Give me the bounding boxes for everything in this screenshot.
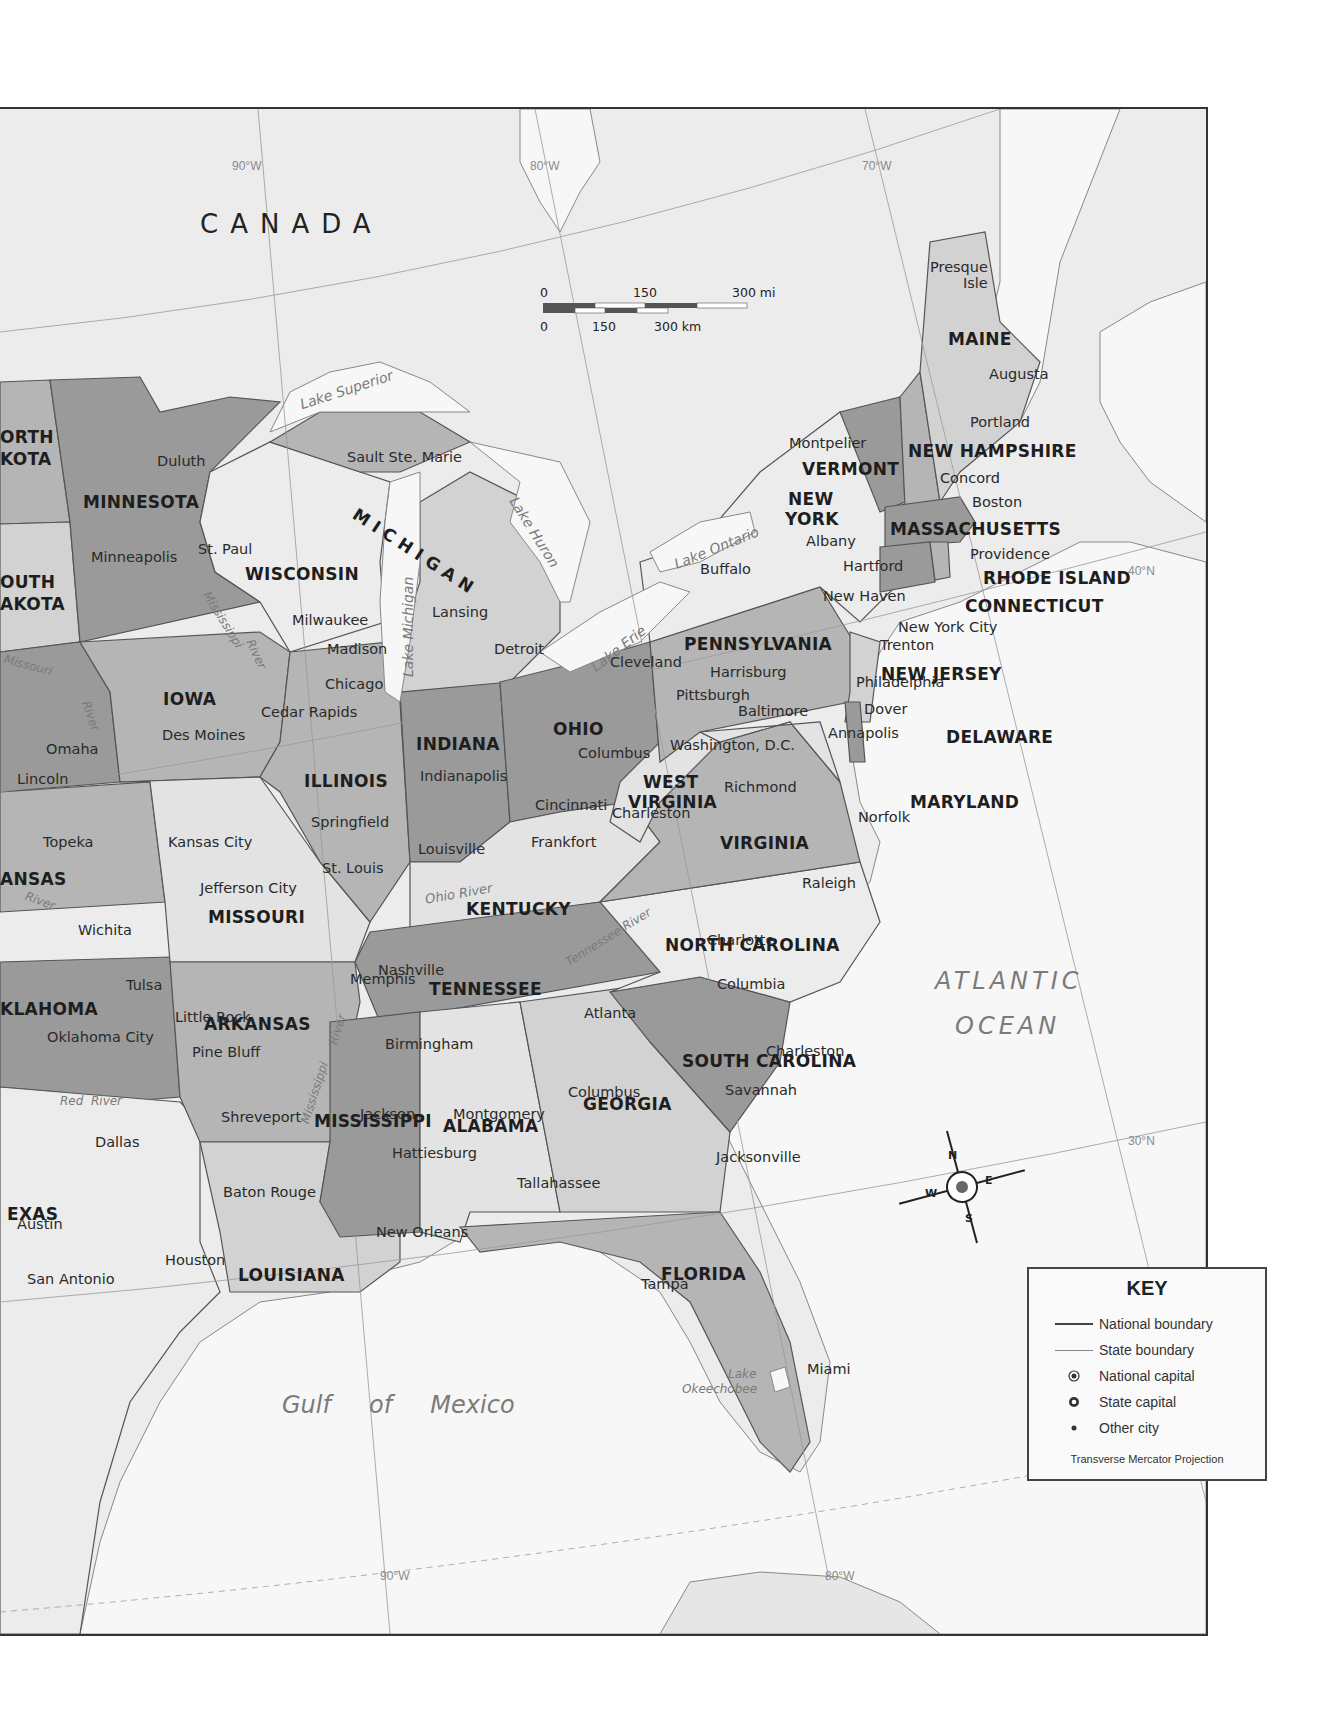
city-augusta: Augusta (989, 366, 1049, 382)
city-new-orleans: New Orleans (376, 1224, 468, 1240)
scale-mi-300: 300 mi (732, 285, 775, 300)
gulf-label: Gulf of Mexico (282, 1391, 515, 1419)
key-label: State capital (1099, 1394, 1176, 1410)
city-montgomery: Montgomery (453, 1106, 545, 1122)
city-cincinnati: Cincinnati (535, 797, 607, 813)
city-raleigh: Raleigh (802, 875, 856, 891)
city-wichita: Wichita (78, 922, 132, 938)
city-madison: Madison (327, 641, 387, 657)
state-label-ohio: OHIO (553, 719, 604, 739)
city-buffalo: Buffalo (700, 561, 751, 577)
state-label-south-dakota-2: AKOTA (0, 594, 65, 614)
scale-mi-0: 0 (540, 285, 548, 300)
key-label: National capital (1099, 1368, 1195, 1384)
city-albany: Albany (806, 533, 856, 549)
city-topeka: Topeka (43, 834, 93, 850)
national-boundary-line-icon (1049, 1323, 1099, 1325)
state-label-delaware: DELAWARE (946, 727, 1053, 747)
compass-w: W (925, 1187, 937, 1200)
city-norfolk: Norfolk (858, 809, 910, 825)
city-houston: Houston (165, 1252, 225, 1268)
city-st-paul: St. Paul (198, 541, 252, 557)
city-new-york-city: New York City (898, 619, 997, 635)
city-tallahassee: Tallahassee (517, 1175, 600, 1191)
state-label-tennessee: TENNESSEE (429, 979, 542, 999)
city-dot-icon (1049, 1424, 1099, 1432)
ocean-label-atlantic-1: ATLANTIC (935, 967, 1083, 995)
water-label-lake-okeechobee-2: Okeechobee (682, 1382, 757, 1396)
city-charlotte: Charlotte (707, 932, 774, 948)
city-chicago: Chicago (325, 676, 383, 692)
city-cedar-rapids: Cedar Rapids (261, 704, 357, 720)
city-columbia: Columbia (717, 976, 785, 992)
city-savannah: Savannah (725, 1082, 797, 1098)
grid-label-70w-top: 70°W (862, 159, 891, 173)
city-charleston-sc: Charleston (766, 1043, 844, 1059)
key-title: KEY (1029, 1277, 1265, 1300)
city-portland: Portland (970, 414, 1030, 430)
city-philadelphia: Philadelphia (856, 674, 944, 690)
city-charleston-wv: Charleston (612, 805, 690, 821)
water-label-lake-okeechobee-1: Lake (728, 1367, 756, 1381)
city-st-louis: St. Louis (322, 860, 384, 876)
city-tampa: Tampa (641, 1276, 689, 1292)
city-kansas-city: Kansas City (168, 834, 252, 850)
city-little-rock: Little Rock (175, 1009, 251, 1025)
grid-label-90w-top: 90°W (232, 159, 261, 173)
state-label-new-york-2: YORK (785, 509, 839, 529)
city-presque-isle-1: Presque (930, 259, 988, 275)
state-label-north-dakota-1: ORTH (0, 427, 54, 447)
map-key: KEY National boundary State boundary Nat… (1027, 1267, 1267, 1481)
grid-label-80w-top: 80°W (530, 159, 559, 173)
city-oklahoma-city: Oklahoma City (47, 1029, 154, 1045)
grid-label-30n: 30°N (1128, 1134, 1155, 1148)
city-baton-rouge: Baton Rouge (223, 1184, 316, 1200)
city-atlanta: Atlanta (584, 1005, 636, 1021)
compass-e: E (985, 1174, 993, 1187)
city-columbus-ga: Columbus (568, 1084, 640, 1100)
key-row-other-city: Other city (1049, 1417, 1159, 1439)
city-des-moines: Des Moines (162, 727, 245, 743)
state-label-kansas: ANSAS (0, 869, 67, 889)
water-label-red-river: Red River (60, 1094, 122, 1108)
city-frankfort: Frankfort (531, 834, 596, 850)
state-capital-icon (1049, 1396, 1099, 1408)
city-dover: Dover (864, 701, 908, 717)
city-nashville: Nashville (378, 962, 444, 978)
city-hartford: Hartford (843, 558, 903, 574)
city-harrisburg: Harrisburg (710, 664, 786, 680)
state-label-minnesota: MINNESOTA (83, 492, 199, 512)
grid-label-80w-bottom: 80°W (825, 1569, 854, 1583)
state-label-west-virginia-1: WEST (643, 772, 698, 792)
key-label: Other city (1099, 1420, 1159, 1436)
city-richmond: Richmond (724, 779, 797, 795)
state-label-new-york-1: NEW (788, 489, 834, 509)
map-canvas (0, 109, 1206, 1634)
scale-mi-150: 150 (633, 285, 657, 300)
state-label-connecticut: CONNECTICUT (965, 596, 1104, 616)
city-cleveland: Cleveland (610, 654, 682, 670)
city-baltimore: Baltimore (738, 703, 808, 719)
key-row-state-capital: State capital (1049, 1391, 1176, 1413)
scale-km-150: 150 (592, 319, 616, 334)
grid-label-40n: 40°N (1128, 564, 1155, 578)
country-label-canada: CANADA (200, 209, 383, 239)
city-sault-ste-marie: Sault Ste. Marie (347, 449, 462, 465)
city-shreveport: Shreveport (221, 1109, 301, 1125)
key-row-state-boundary: State boundary (1049, 1339, 1194, 1361)
state-label-louisiana: LOUISIANA (238, 1265, 345, 1285)
compass-n: N (948, 1149, 957, 1162)
city-lansing: Lansing (432, 604, 488, 620)
city-milwaukee: Milwaukee (292, 612, 368, 628)
state-label-kentucky: KENTUCKY (466, 899, 571, 919)
state-label-new-hampshire: NEW HAMPSHIRE (908, 441, 1077, 461)
key-row-national-capital: National capital (1049, 1365, 1195, 1387)
city-miami: Miami (807, 1361, 851, 1377)
state-label-wisconsin: WISCONSIN (245, 564, 359, 584)
state-label-rhode-island: RHODE ISLAND (983, 568, 1131, 588)
city-washington-dc: Washington, D.C. (670, 737, 795, 753)
city-indianapolis: Indianapolis (420, 768, 507, 784)
city-springfield: Springfield (311, 814, 389, 830)
city-pittsburgh: Pittsburgh (676, 687, 750, 703)
state-label-maine: MAINE (948, 329, 1012, 349)
